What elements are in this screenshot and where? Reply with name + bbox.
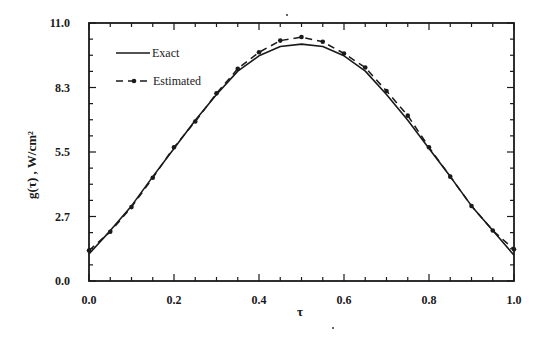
legend-exact-label: Exact <box>152 46 180 60</box>
plot-frame <box>89 23 514 281</box>
x-tick-label: 0.0 <box>82 293 97 307</box>
legend-estimated-label: Estimated <box>153 74 201 88</box>
x-tick-label: 0.4 <box>252 293 267 307</box>
x-tick-label: 0.2 <box>167 293 182 307</box>
estimated-marker <box>150 176 155 181</box>
plot-border <box>89 23 514 281</box>
estimated-marker <box>87 248 92 253</box>
estimated-marker <box>342 51 347 56</box>
y-tick-label: 2.7 <box>55 210 70 224</box>
y-axis-label: g(τ) , W/cm² <box>24 131 39 199</box>
estimated-marker <box>469 204 474 209</box>
x-tick-label: 1.0 <box>507 293 522 307</box>
estimated-marker <box>108 229 113 234</box>
chart: 0.00.20.40.60.81.0 0.02.75.58.311.0 Exac… <box>0 0 545 345</box>
estimated-marker <box>172 145 177 150</box>
estimated-marker <box>427 145 432 150</box>
estimated-marker <box>384 89 389 94</box>
y-tick-label: 8.3 <box>55 81 70 95</box>
estimated-marker <box>278 38 283 43</box>
y-tick-label: 11.0 <box>50 16 70 30</box>
estimated-marker <box>363 65 368 70</box>
series-estimated-line <box>87 35 517 253</box>
x-tick-label: 0.6 <box>337 293 352 307</box>
x-axis-label: τ <box>297 304 303 319</box>
scan-artifact-dot <box>286 14 288 16</box>
estimated-marker <box>448 174 453 179</box>
scan-artifact-dot <box>332 327 334 329</box>
y-tick-label: 0.0 <box>55 274 70 288</box>
estimated-marker <box>129 205 134 210</box>
estimated-marker <box>235 66 240 71</box>
y-tick-label: 5.5 <box>55 145 70 159</box>
legend: Exact Estimated <box>116 46 201 88</box>
estimated-marker <box>257 50 262 55</box>
x-tick-label: 0.8 <box>422 293 437 307</box>
estimated-marker <box>214 91 219 96</box>
estimated-marker <box>320 39 325 44</box>
estimated-curve <box>89 37 514 250</box>
axis-ticks <box>89 23 514 281</box>
legend-estimated-marker <box>132 79 137 84</box>
y-tick-labels: 0.02.75.58.311.0 <box>50 16 70 288</box>
estimated-marker <box>405 113 410 118</box>
estimated-marker <box>193 119 198 124</box>
estimated-marker <box>490 228 495 233</box>
estimated-marker <box>299 35 304 40</box>
estimated-marker <box>512 247 517 252</box>
